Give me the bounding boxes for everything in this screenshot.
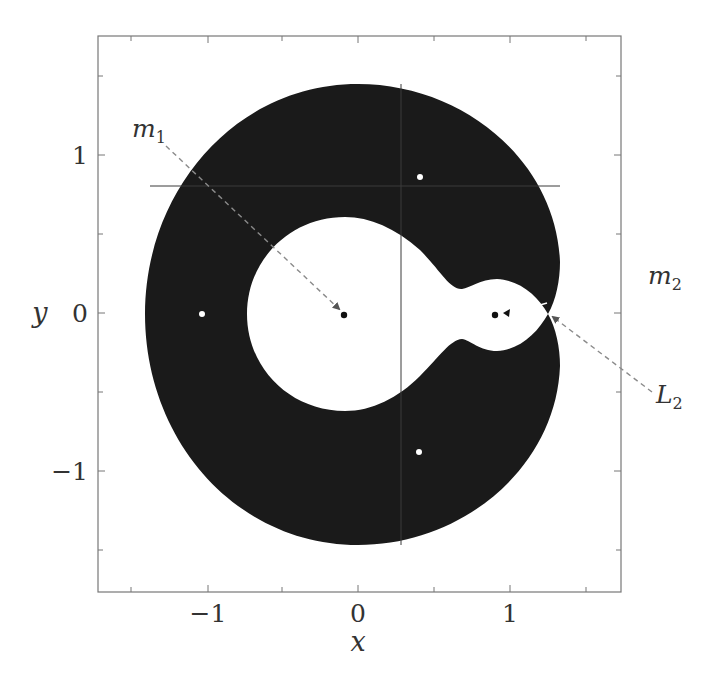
l2-label-sub: 2 [673,394,683,413]
l2-label: L2 [655,380,683,413]
y-tick-label-1: 1 [72,141,88,170]
l2-label-main: L [655,380,673,409]
l1-arrowhead-icon [503,309,510,317]
x-tick-label-0: 0 [350,599,366,628]
l3-point [199,311,205,317]
y-tick-label-0: 0 [72,299,88,328]
y-axis-label: y [31,297,48,328]
m1-label-sub: 1 [156,128,166,147]
m2-label: m2 [648,261,682,294]
m2-label-main: m [648,261,672,290]
x-axis-label: x [350,626,365,657]
l4-point [417,174,423,180]
m2-label-sub: 2 [672,275,682,294]
x-tick-label-neg1: −1 [190,599,227,628]
m1-label-main: m [132,114,156,143]
y-tick-label-neg1: −1 [51,457,88,486]
l2-arrow [553,317,652,392]
m1-point [341,312,347,318]
m1-label: m1 [132,114,166,147]
l5-point [416,449,422,455]
x-tick-label-1: 1 [502,599,518,628]
zero-velocity-plot: −1 0 1 1 0 −1 x y m1 m2 L2 [0,0,707,683]
m2-point [492,312,498,318]
